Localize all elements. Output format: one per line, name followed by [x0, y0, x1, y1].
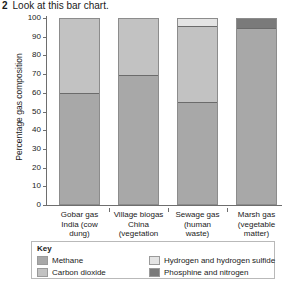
legend-swatch-icon [37, 268, 48, 277]
bar-3 [177, 18, 218, 205]
category-label-line: India (cow [51, 220, 109, 230]
legend-item-3: Carbon dioxide [37, 268, 149, 277]
legend-items: MethaneHydrogen and hydrogen sulfideCarb… [37, 254, 269, 278]
y-tick-mark [43, 18, 47, 19]
legend-item-label: Carbon dioxide [52, 268, 106, 277]
question-number: 2 [2, 0, 8, 12]
bar-segment [237, 19, 276, 28]
y-tick-label: 40 [32, 126, 41, 134]
question-prompt: Look at this bar chart. [13, 0, 109, 12]
legend-swatch-icon [37, 256, 48, 265]
plot-area: 0102030405060708090100 [46, 12, 282, 212]
y-tick-label: 0 [37, 201, 41, 209]
y-tick-mark [43, 130, 47, 131]
category-label-line: Gobar gas [51, 210, 109, 220]
legend-item-label: Phosphine and nitrogen [164, 268, 249, 277]
bar-segment [119, 19, 158, 75]
y-axis-title: Percentage gas composition [14, 27, 24, 187]
y-tick-mark [43, 112, 47, 113]
y-tick-label: 50 [32, 108, 41, 116]
y-tick-mark [43, 74, 47, 75]
category-label-4: Marsh gas(vegetablematter) [228, 210, 283, 239]
bar-2 [118, 18, 159, 205]
category-label-line: matter) [228, 229, 283, 239]
y-tick-label: 100 [28, 14, 41, 22]
legend-title: Key [37, 244, 269, 254]
bar-1 [59, 18, 100, 205]
y-tick-mark [43, 37, 47, 38]
y-tick-label: 80 [32, 51, 41, 59]
y-tick-label: 10 [32, 182, 41, 190]
category-label-1: Gobar gasIndia (cowdung) [51, 210, 109, 239]
category-label-line: Marsh gas [228, 210, 283, 220]
y-tick-mark [43, 55, 47, 56]
category-label-line: (human [169, 220, 227, 230]
category-label-line: China (vegetation [110, 220, 168, 239]
y-tick-label: 20 [32, 164, 41, 172]
y-tick-label: 90 [32, 33, 41, 41]
bar-segment [60, 93, 99, 204]
legend-item-label: Methane [52, 256, 83, 265]
y-tick-mark [43, 93, 47, 94]
category-label-line: waste) [169, 229, 227, 239]
y-tick-mark [43, 149, 47, 150]
y-tick-mark [43, 205, 47, 206]
category-label-3: Sewage gas(humanwaste) [169, 210, 227, 239]
bar-4 [236, 18, 277, 205]
category-label-line: dung) [51, 229, 109, 239]
bar-segment [178, 19, 217, 26]
bar-segment [237, 28, 276, 204]
bar-segment [178, 26, 217, 102]
bar-chart-figure: Percentage gas composition 0102030405060… [0, 12, 282, 240]
legend-swatch-icon [149, 256, 160, 265]
category-label-line: (vegetable [228, 220, 283, 230]
legend-item-4: Phosphine and nitrogen [149, 268, 275, 277]
bar-segment [178, 102, 217, 204]
legend-swatch-icon [149, 268, 160, 277]
category-label-line: Village biogas [110, 210, 168, 220]
legend-item-1: Methane [37, 256, 149, 265]
legend-item-2: Hydrogen and hydrogen sulfide [149, 256, 275, 265]
y-tick-mark [43, 186, 47, 187]
legend-key: Key MethaneHydrogen and hydrogen sulfide… [31, 241, 275, 279]
y-tick-label: 60 [32, 89, 41, 97]
y-tick-label: 30 [32, 145, 41, 153]
legend-item-label: Hydrogen and hydrogen sulfide [164, 256, 275, 265]
y-tick-label: 70 [32, 70, 41, 78]
bar-segment [60, 19, 99, 93]
x-axis-line [46, 205, 282, 206]
bar-segment [119, 75, 158, 205]
y-tick-mark [43, 168, 47, 169]
category-label-line: Sewage gas [169, 210, 227, 220]
